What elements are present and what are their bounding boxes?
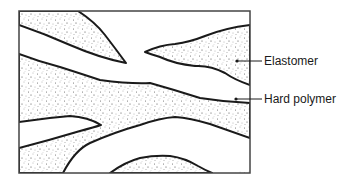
elastomer-region-right	[145, 25, 250, 85]
elastomer-region-top-left	[19, 11, 126, 63]
diagram-regions	[19, 11, 250, 173]
hard-polymer-label: Hard polymer	[264, 92, 336, 106]
elastomer-region-central-band	[19, 54, 250, 173]
hard-polymer-leader	[234, 97, 262, 100]
elastomer-label: Elastomer	[264, 54, 318, 68]
elastomer-region-bottom	[110, 156, 212, 173]
